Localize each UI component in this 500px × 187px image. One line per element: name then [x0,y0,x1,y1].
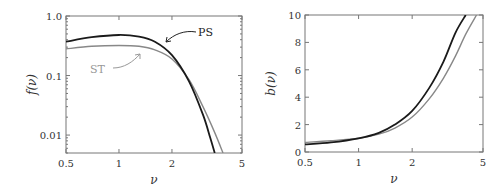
x-tick-label: 0.5 [58,158,74,169]
ps-label: PS [198,26,213,39]
y-axis-label: b(ν) [264,71,278,96]
y-axis-label: f(ν) [25,74,39,96]
x-axis-label: ν [150,173,157,187]
y-tick-label: 2 [295,120,301,131]
x-tick-label: 1 [355,157,361,168]
st-label: ST [90,63,106,76]
y-tick-label: 6 [295,65,301,76]
y-tick-label: 1.0 [46,11,62,22]
series-ps [66,35,215,153]
y-tick-label: 10 [288,10,301,21]
figure: 0.51250.010.11.0νf(ν)0.51250246810νb(ν)P… [0,0,500,187]
x-tick-label: 0.5 [297,157,313,168]
b-plot-frame [305,15,483,152]
st-arrow [113,54,140,68]
x-tick-label: 2 [409,157,415,168]
y-tick-label: 0 [295,147,301,158]
x-tick-label: 2 [169,158,175,169]
x-tick-label: 5 [480,157,486,168]
y-tick-label: 8 [295,37,301,48]
y-tick-label: 4 [295,92,301,103]
ps-arrow [166,31,196,42]
series-st [66,45,223,153]
y-tick-label: 0.1 [46,71,62,82]
x-tick-label: 5 [239,158,245,169]
y-tick-label: 0.01 [40,130,62,141]
x-axis-label: ν [390,172,397,186]
series-st [305,15,477,142]
x-tick-label: 1 [116,158,122,169]
